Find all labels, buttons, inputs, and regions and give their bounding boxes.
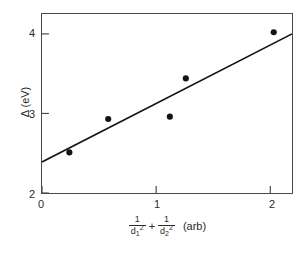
denominator-subscript: 1 bbox=[136, 230, 140, 237]
plot-canvas bbox=[42, 14, 292, 193]
x-axis-label: 1 d12 + 1 d22 (arb) bbox=[41, 215, 293, 236]
data-point-1 bbox=[105, 116, 111, 122]
figure-scatter-plot: 4 3 2 Δ (eV) 0 1 2 1 d12 + 1 d22 (arb) bbox=[0, 0, 305, 259]
x-tick-label-2: 2 bbox=[263, 199, 281, 210]
fraction-one-over-d2-squared: 1 d22 bbox=[158, 215, 175, 236]
x-tick-label-0: 0 bbox=[32, 199, 50, 210]
data-points bbox=[66, 29, 276, 155]
fit-line bbox=[42, 34, 292, 162]
y-tick-label-4: 4 bbox=[17, 28, 35, 39]
plus-operator: + bbox=[149, 220, 155, 232]
denominator-superscript: 2 bbox=[169, 224, 173, 231]
data-point-0 bbox=[66, 149, 72, 155]
fraction-one-over-d1-squared: 1 d12 bbox=[129, 215, 146, 236]
data-point-2 bbox=[167, 114, 173, 120]
y-axis-label: Δ (eV) bbox=[19, 67, 31, 137]
denominator-superscript: 2 bbox=[140, 224, 144, 231]
x-tick-label-1: 1 bbox=[148, 199, 166, 210]
denominator-subscript: 2 bbox=[165, 230, 169, 237]
axis-ticks bbox=[42, 34, 270, 193]
fraction-denominator: d22 bbox=[158, 226, 175, 236]
x-axis-units: (arb) bbox=[183, 220, 206, 232]
fraction-denominator: d12 bbox=[129, 226, 146, 236]
data-point-3 bbox=[183, 75, 189, 81]
plot-frame bbox=[41, 13, 293, 194]
best-fit-line bbox=[42, 34, 292, 162]
data-point-4 bbox=[271, 29, 277, 35]
